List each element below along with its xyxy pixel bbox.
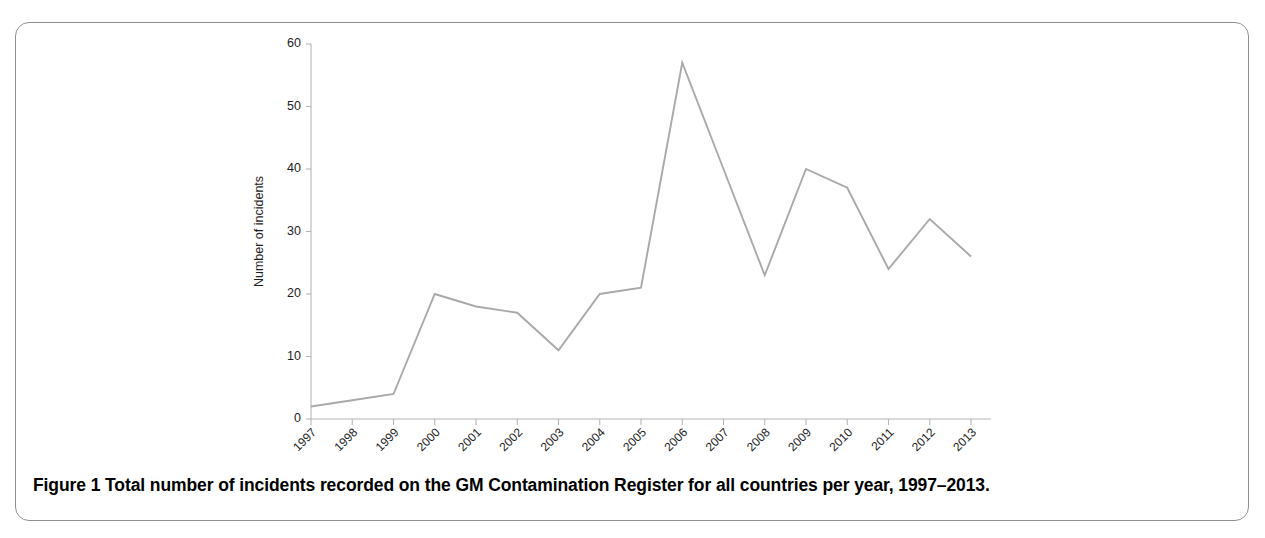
- x-tick-label: 2010: [827, 425, 856, 454]
- x-tick-label: 2003: [538, 425, 567, 454]
- x-tick-label: 2000: [414, 425, 443, 454]
- x-tick-label: 1997: [290, 425, 319, 454]
- x-axis: 1997199819992000200120022003200420052006…: [290, 419, 991, 454]
- x-tick-label: 1998: [332, 425, 361, 454]
- figure-panel: 0102030405060 19971998199920002001200220…: [15, 22, 1249, 521]
- x-tick-label: 2013: [950, 425, 979, 454]
- x-tick-label: 2009: [785, 425, 814, 454]
- y-tick-label: 60: [287, 36, 301, 50]
- x-tick-label: 2001: [455, 425, 484, 454]
- x-tick-label: 2012: [909, 425, 938, 454]
- data-series-group: [311, 63, 971, 407]
- x-tick-label: 2002: [497, 425, 526, 454]
- y-axis-title: Number of incidents: [252, 176, 266, 287]
- x-tick-label: 2011: [868, 425, 896, 453]
- chart-plot-area: 0102030405060 19971998199920002001200220…: [16, 23, 1250, 473]
- y-axis: 0102030405060: [287, 36, 311, 425]
- x-tick-label: 2007: [703, 425, 732, 454]
- caption-text: Total number of incidents recorded on th…: [105, 475, 990, 495]
- line-chart: 0102030405060 19971998199920002001200220…: [16, 23, 1250, 473]
- y-tick-label: 30: [287, 224, 301, 238]
- y-tick-label: 40: [287, 161, 301, 175]
- data-line-total-incidents: [311, 63, 971, 407]
- y-tick-label: 10: [287, 349, 301, 363]
- x-tick-label: 2008: [744, 425, 773, 454]
- x-tick-label: 1999: [373, 425, 402, 454]
- caption-label: Figure 1: [33, 475, 100, 495]
- figure-caption: Figure 1 Total number of incidents recor…: [33, 475, 1233, 496]
- x-tick-label: 2006: [662, 425, 691, 454]
- y-tick-label: 20: [287, 286, 301, 300]
- x-tick-label: 2004: [579, 425, 608, 454]
- y-tick-label: 0: [294, 411, 301, 425]
- y-tick-label: 50: [287, 99, 301, 113]
- x-tick-label: 2005: [620, 425, 649, 454]
